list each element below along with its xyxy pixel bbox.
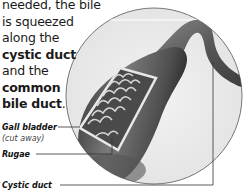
text-line: is squeezed: [2, 14, 101, 31]
term-bile-duct: bile duct: [2, 96, 62, 111]
label-rugae: Rugae: [2, 150, 30, 159]
term-cystic-duct: cystic duct: [2, 47, 76, 62]
label-cut-away: (cut away): [2, 134, 44, 143]
text-line: along the: [2, 30, 101, 47]
text-line: needed, the bile: [2, 0, 101, 14]
term-common: common: [2, 80, 60, 95]
label-cystic-duct: Cystic duct: [2, 181, 52, 190]
text-line: and the: [2, 63, 101, 80]
label-gall-bladder: Gall bladder: [2, 123, 57, 132]
description-text: needed, the bile is squeezed along the c…: [2, 0, 101, 113]
